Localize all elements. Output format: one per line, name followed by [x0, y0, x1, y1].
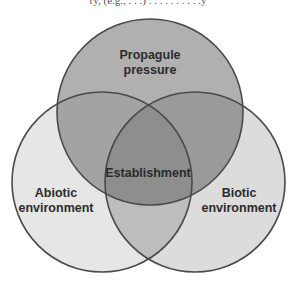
label-abiotic-line1: Abiotic	[35, 186, 77, 200]
label-establishment: Establishment	[105, 166, 191, 180]
cut-off-caption: ry, (e.g., . . .) . . . . . . . . . .y	[90, 0, 207, 7]
label-biotic-line1: Biotic	[222, 186, 257, 200]
label-biotic-line2: environment	[201, 201, 277, 215]
label-propagule-line2: pressure	[124, 63, 177, 77]
label-abiotic-line2: environment	[18, 201, 94, 215]
label-propagule-line1: Propagule	[119, 48, 180, 62]
venn-diagram: ry, (e.g., . . .) . . . . . . . . . .y P…	[0, 0, 295, 287]
